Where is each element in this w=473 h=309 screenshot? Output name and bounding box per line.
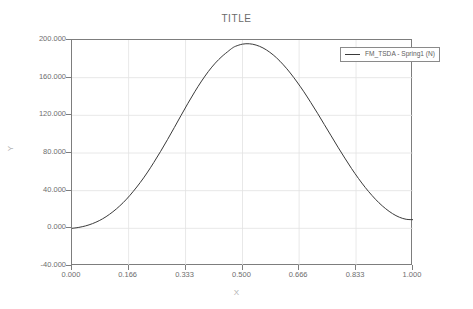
y-tick-mark bbox=[66, 227, 71, 228]
x-tick-label: 0.000 bbox=[62, 271, 81, 279]
legend-line-swatch-icon bbox=[345, 54, 360, 55]
x-tick-label: 0.666 bbox=[289, 271, 308, 279]
x-tick-label: 0.166 bbox=[118, 271, 137, 279]
x-tick-mark bbox=[355, 265, 356, 270]
plot-area bbox=[71, 39, 412, 265]
chart-container: TITLE 200.000160.000120.00080.00040.0000… bbox=[0, 0, 473, 309]
x-tick-mark bbox=[71, 265, 72, 270]
y-tick-mark bbox=[66, 39, 71, 40]
x-tick-label: 0.833 bbox=[346, 271, 365, 279]
x-axis-label: X bbox=[0, 288, 473, 297]
x-tick-mark bbox=[128, 265, 129, 270]
x-tick-label: 0.333 bbox=[175, 271, 194, 279]
y-tick-mark bbox=[66, 190, 71, 191]
legend[interactable]: FM_TSDA - Spring1 (N) bbox=[340, 47, 440, 62]
y-tick-mark bbox=[66, 152, 71, 153]
y-axis-label: Y bbox=[6, 146, 15, 151]
x-tick-label: 1.000 bbox=[403, 271, 422, 279]
y-tick-mark bbox=[66, 114, 71, 115]
x-tick-label: 0.500 bbox=[232, 271, 251, 279]
gridlines bbox=[72, 40, 413, 266]
legend-entry-label: FM_TSDA - Spring1 (N) bbox=[365, 51, 435, 58]
plot-svg bbox=[72, 40, 413, 266]
x-tick-mark bbox=[242, 265, 243, 270]
x-tick-mark bbox=[412, 265, 413, 270]
x-tick-mark bbox=[298, 265, 299, 270]
y-tick-mark bbox=[66, 77, 71, 78]
x-tick-mark bbox=[185, 265, 186, 270]
